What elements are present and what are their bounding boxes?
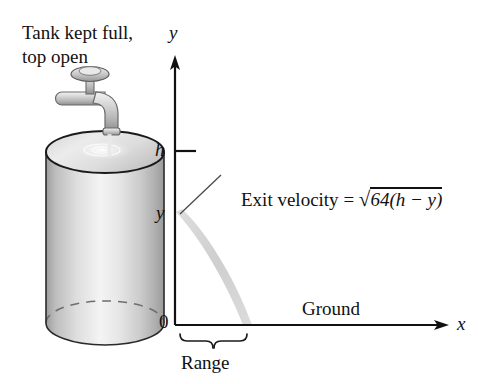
equation-radical: √64(h − y) bbox=[359, 186, 442, 212]
x-axis-label: x bbox=[457, 313, 465, 335]
water-ripple-outer bbox=[72, 140, 132, 160]
ground-label: Ground bbox=[302, 298, 360, 320]
equation-lhs: Exit velocity bbox=[241, 189, 339, 210]
height-h-label: h bbox=[155, 139, 165, 161]
tank-cylinder bbox=[46, 131, 164, 345]
equation-leader-line bbox=[180, 175, 221, 214]
range-brace bbox=[180, 334, 247, 348]
radical-sign-icon: √ bbox=[359, 187, 371, 211]
level-y-label: y bbox=[156, 202, 164, 224]
faucet-spout-tip bbox=[103, 128, 120, 135]
exit-velocity-equation: Exit velocity = √64(h − y) bbox=[222, 164, 442, 235]
equation-equals: = bbox=[343, 189, 354, 210]
origin-label: 0 bbox=[159, 311, 169, 333]
faucet-water-stream-core bbox=[108, 134, 112, 156]
water-tank-torricelli-diagram: Tank kept full, top open y x h y 0 Groun… bbox=[0, 0, 478, 384]
faucet-spout bbox=[93, 92, 118, 131]
tank-caption-line-2: top open bbox=[22, 46, 88, 68]
equation-radicand: 64(h − y) bbox=[370, 189, 442, 210]
y-axis-label: y bbox=[169, 22, 177, 44]
tank-caption-line-1: Tank kept full, bbox=[22, 22, 133, 44]
range-label: Range bbox=[181, 352, 230, 374]
tank-body bbox=[46, 152, 164, 345]
radical-vinculum bbox=[370, 187, 442, 188]
